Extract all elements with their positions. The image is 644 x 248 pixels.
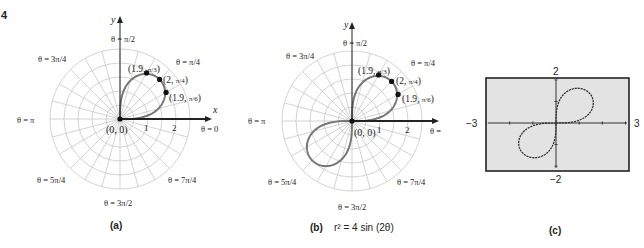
point-dot (157, 77, 162, 82)
figure: 4 y x (0, 0) 1 2 (1.9, π/3) (2, π/4) (1.… (0, 0, 644, 248)
svg-text:(1.9, π/3): (1.9, π/3) (358, 66, 390, 77)
x-axis-arrow-icon (432, 118, 439, 124)
point-dot (163, 90, 168, 95)
caption-a: (a) (110, 220, 122, 231)
svg-text:θ = 3π/4: θ = 3π/4 (286, 51, 315, 61)
svg-text:θ = 5π/4: θ = 5π/4 (268, 177, 297, 187)
xmax-label: 3 (634, 118, 640, 129)
svg-text:(1.9, π/3): (1.9, π/3) (128, 64, 160, 75)
equation: r² = 4 sin (2θ) (334, 222, 394, 233)
tick-1: 1 (144, 123, 149, 133)
tick-2: 2 (172, 123, 177, 133)
origin-label: (0, 0) (354, 127, 376, 139)
calculator-screen (486, 78, 629, 171)
panel-b: y (0, 0) 1 2 (1.9, π/3) (2, π/4) (1.9, π… (248, 19, 441, 233)
xmin-label: −3 (466, 118, 478, 129)
svg-text:(1.9, π/6): (1.9, π/6) (402, 94, 434, 105)
svg-text:θ = π/4: θ = π/4 (176, 57, 201, 67)
tick-2: 2 (405, 125, 410, 135)
tick-1: 1 (377, 125, 382, 135)
svg-text:θ = 0: θ = 0 (201, 124, 218, 134)
svg-text:θ = 5π/4: θ = 5π/4 (37, 175, 66, 185)
ymin-label: −2 (550, 174, 562, 185)
x-axis-arrow-icon (205, 116, 212, 122)
svg-text:θ = π: θ = π (17, 115, 35, 125)
angle-label-zero: θ = (430, 126, 441, 136)
svg-text:θ = 3π/2: θ = 3π/2 (104, 198, 132, 208)
origin-dot (117, 116, 122, 121)
svg-text:θ = 3π/4: θ = 3π/4 (38, 54, 67, 64)
caption-c: (c) (549, 225, 561, 236)
svg-text:θ = 7π/4: θ = 7π/4 (168, 175, 197, 185)
point-dot (389, 79, 394, 84)
svg-text:(2, π/4): (2, π/4) (163, 75, 188, 86)
figure-number: 4 (1, 9, 8, 21)
panel-a: y x (0, 0) 1 2 (1.9, π/3) (2, π/4) (1.9,… (17, 14, 218, 231)
svg-text:θ = 3π/2: θ = 3π/2 (338, 202, 366, 212)
svg-text:(1.9, π/6): (1.9, π/6) (169, 93, 201, 104)
ymax-label: 2 (553, 66, 559, 77)
panel-c: 2 −2 −3 3 (c) (466, 66, 640, 236)
y-axis-label: y (343, 19, 349, 30)
point-dot (395, 92, 400, 97)
y-axis-label: y (110, 14, 116, 25)
origin-dot (349, 118, 354, 123)
svg-text:θ = 7π/4: θ = 7π/4 (397, 177, 426, 187)
svg-text:θ = π: θ = π (248, 116, 266, 126)
y-axis-arrow-icon (349, 22, 355, 29)
svg-text:θ = π/2: θ = π/2 (343, 38, 367, 48)
svg-text:(2, π/4): (2, π/4) (396, 76, 421, 87)
x-axis-label: x (212, 104, 218, 115)
caption-b: (b) (310, 222, 323, 233)
svg-text:θ = π/4: θ = π/4 (411, 58, 436, 68)
y-axis-arrow-icon (117, 16, 123, 23)
svg-text:θ = π/2: θ = π/2 (111, 34, 135, 44)
origin-label: (0, 0) (106, 124, 128, 136)
